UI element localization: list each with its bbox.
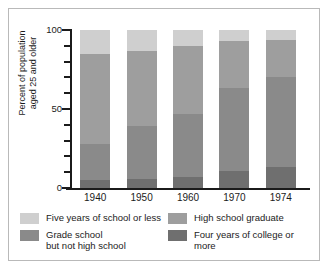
y-axis-tick-label-0: 0 [30, 183, 62, 192]
bar-segment [173, 177, 203, 188]
y-axis-tick-70 [64, 76, 71, 78]
bar-1960[interactable] [173, 30, 203, 188]
bar-segment [219, 171, 249, 188]
bar-segment [266, 167, 296, 188]
bar-1950[interactable] [127, 30, 157, 188]
bar-segment [80, 30, 110, 54]
bar-segment [173, 30, 203, 46]
bar-segment [266, 30, 296, 39]
bar-segment [219, 88, 249, 170]
figure-root: Percent of population aged 25 and older … [0, 0, 328, 269]
legend-item-grade-school[interactable]: Grade school but not high school [20, 229, 126, 251]
plot-area [72, 30, 304, 188]
y-axis-tick-20 [64, 155, 71, 157]
bar-segment [219, 30, 249, 41]
y-axis-tick-label-50: 50 [30, 104, 62, 113]
bar-1940[interactable] [80, 30, 110, 188]
bar-1970[interactable] [219, 30, 249, 188]
bar-segment [127, 51, 157, 127]
legend-label-high-school-graduate: High school graduate [194, 212, 284, 223]
legend-label-five-years-or-less: Five years of school or less [46, 212, 161, 223]
bar-segment [127, 30, 157, 51]
legend-item-five-years-or-less[interactable]: Five years of school or less [20, 212, 161, 224]
y-axis-tick-30 [64, 140, 71, 142]
bar-segment [219, 41, 249, 88]
legend-label-grade-school: Grade school but not high school [46, 229, 126, 251]
bar-segment [266, 40, 296, 78]
y-axis-tick-80 [64, 61, 71, 63]
y-axis-tick-label-100: 100 [30, 25, 62, 34]
x-axis-tick-label-1970: 1970 [211, 192, 257, 203]
bar-segment [80, 180, 110, 188]
bar-segment [127, 179, 157, 188]
y-axis-tick-100 [62, 29, 71, 31]
x-axis-tick-label-1950: 1950 [119, 192, 165, 203]
y-axis-tick-50 [62, 108, 71, 110]
chart-legend: Five years of school or less Grade schoo… [20, 212, 312, 258]
legend-swatch-grade-school [20, 230, 39, 241]
legend-item-high-school-graduate[interactable]: High school graduate [168, 212, 284, 224]
bar-segment [173, 46, 203, 114]
legend-swatch-college-four-plus [168, 230, 187, 241]
legend-swatch-five-years-or-less [20, 213, 39, 224]
y-axis-tick-60 [64, 92, 71, 94]
bar-segment [173, 114, 203, 177]
x-axis-line [66, 188, 310, 190]
legend-label-college-four-plus: Four years of college or more [194, 229, 312, 251]
x-axis-tick-label-1960: 1960 [165, 192, 211, 203]
y-axis-tick-40 [64, 124, 71, 126]
bar-segment [266, 77, 296, 167]
bar-1974[interactable] [266, 30, 296, 188]
bar-segment [127, 126, 157, 178]
legend-swatch-high-school-graduate [168, 213, 187, 224]
bar-segment [80, 144, 110, 180]
legend-item-college-four-plus[interactable]: Four years of college or more [168, 229, 312, 251]
bar-segment [80, 54, 110, 144]
y-axis-title: Percent of population aged 25 and older [17, 3, 39, 143]
x-axis-tick-label-1940: 1940 [72, 192, 118, 203]
y-axis-tick-90 [64, 45, 71, 47]
y-axis-tick-10 [64, 171, 71, 173]
x-axis-tick-label-1974: 1974 [258, 192, 304, 203]
